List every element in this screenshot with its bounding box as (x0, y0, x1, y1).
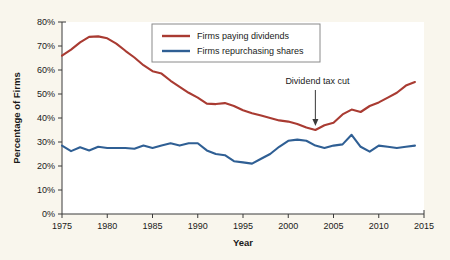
x-axis-tick-label: 1990 (188, 221, 208, 231)
x-axis-tick-label: 2015 (414, 221, 434, 231)
x-axis-title: Year (233, 237, 253, 248)
legend-label-repurchases: Firms repurchasing shares (197, 46, 304, 56)
x-axis-tick-label: 1980 (97, 221, 117, 231)
x-axis-tick-label: 2010 (369, 221, 389, 231)
x-axis-tick-label: 2000 (278, 221, 298, 231)
y-axis-tick-label: 60% (37, 65, 55, 75)
x-axis-tick-label: 2005 (323, 221, 343, 231)
line-chart: 0%10%20%30%40%50%60%70%80%19751980198519… (0, 0, 450, 260)
y-axis-tick-label: 80% (37, 17, 55, 27)
y-axis-tick-label: 50% (37, 89, 55, 99)
legend-label-dividends: Firms paying dividends (197, 31, 290, 41)
x-axis-tick-label: 1995 (233, 221, 253, 231)
y-axis-tick-label: 70% (37, 41, 55, 51)
x-axis-tick-label: 1975 (52, 221, 72, 231)
y-axis-tick-label: 0% (42, 209, 55, 219)
annotation-label: Dividend tax cut (285, 76, 350, 86)
x-axis-tick-label: 1985 (142, 221, 162, 231)
y-axis-tick-label: 40% (37, 113, 55, 123)
chart-figure: 0%10%20%30%40%50%60%70%80%19751980198519… (0, 0, 450, 260)
y-axis-tick-label: 10% (37, 185, 55, 195)
y-axis-title: Percentage of Firms (11, 72, 22, 163)
y-axis-tick-label: 30% (37, 137, 55, 147)
y-axis-tick-label: 20% (37, 161, 55, 171)
